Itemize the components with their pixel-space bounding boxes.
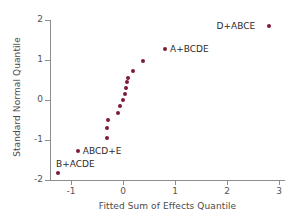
y-axis-title: Standard Normal Quantile	[12, 17, 22, 177]
data-point	[106, 118, 110, 122]
data-point	[116, 111, 120, 115]
x-axis-title: Fitted Sum of Effects Quantile	[50, 201, 285, 211]
data-point	[125, 80, 129, 84]
data-point-label: B+ACDE	[56, 160, 95, 169]
data-point	[131, 69, 135, 73]
data-point-label: ABCD+E	[83, 147, 122, 156]
data-point-label: A+BCDE	[170, 45, 209, 54]
data-point	[121, 98, 125, 102]
data-point-labeled	[267, 24, 271, 28]
data-point	[124, 86, 128, 90]
data-point	[123, 92, 127, 96]
data-point-label: D+ABCE	[217, 22, 256, 31]
data-point	[126, 76, 130, 80]
data-point	[105, 126, 109, 130]
data-point	[105, 136, 109, 140]
data-points-layer: B+ACDEABCD+EA+BCDED+ABCE	[0, 0, 295, 223]
normal-probability-plot: -2-1012-10123 B+ACDEABCD+EA+BCDED+ABCE F…	[0, 0, 295, 223]
data-point-labeled	[76, 149, 80, 153]
data-point	[118, 104, 122, 108]
data-point-labeled	[163, 47, 167, 51]
data-point	[141, 59, 145, 63]
data-point-labeled	[56, 171, 60, 175]
